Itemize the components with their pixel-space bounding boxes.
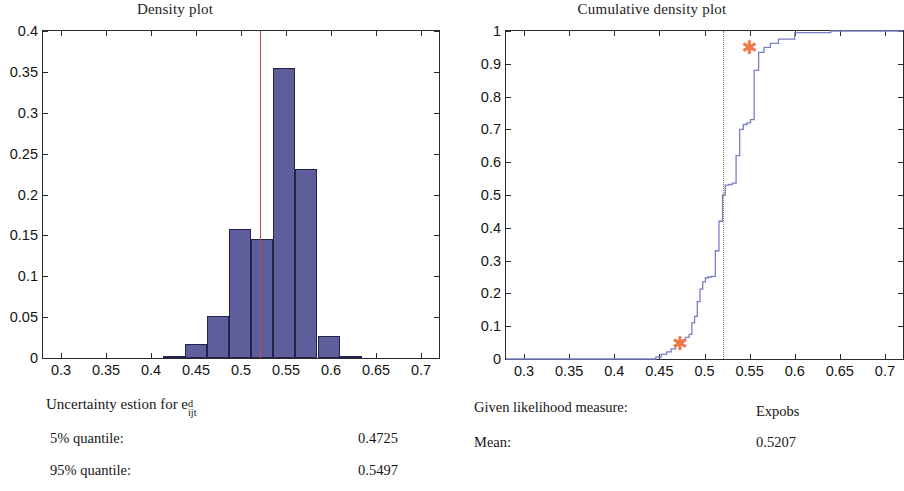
cumulative-y-tick-label: 0.5: [481, 187, 501, 203]
density-y-tick: [43, 235, 48, 236]
histogram-bar: [318, 336, 340, 358]
density-y-tick-right: [434, 113, 439, 114]
cumulative-y-tick-right: [898, 359, 903, 360]
histogram-bar: [207, 316, 229, 358]
histogram-bar: [340, 356, 362, 358]
density-y-tick-label: 0: [30, 350, 38, 366]
cumulative-mean-vline: [723, 31, 724, 359]
density-y-tick-label: 0.2: [18, 187, 38, 203]
likelihood-measure-value: Expobs: [756, 403, 800, 420]
density-y-tick-label: 0.25: [10, 146, 38, 162]
density-caption-heading: Uncertainty estion for edijt: [46, 396, 205, 413]
density-x-tick-top: [106, 31, 107, 36]
density-plot-panel: Density plot 00.050.10.150.20.250.30.350…: [0, 0, 440, 491]
cumulative-y-tick-label: 0.9: [481, 56, 501, 72]
density-x-tick: [376, 353, 377, 358]
cumulative-x-tick-label: 0.45: [645, 363, 673, 379]
cumulative-plot-axes: 00.10.20.30.40.50.60.70.80.91 0.30.350.4…: [505, 30, 904, 360]
density-y-tick-label: 0.05: [10, 309, 38, 325]
histogram-bar: [251, 239, 273, 358]
histogram-bar: [185, 344, 207, 358]
cumulative-density-plot-panel: Cumulative density plot 00.10.20.30.40.5…: [440, 0, 876, 491]
cdf-curve: [506, 31, 903, 359]
density-x-tick-label: 0.45: [182, 362, 210, 378]
density-y-tick: [43, 195, 48, 196]
density-x-tick: [151, 353, 152, 358]
cumulative-y-tick-label: 0.8: [481, 89, 501, 105]
density-caption-heading-text: Uncertainty estion for e: [46, 396, 188, 412]
density-y-tick-right: [434, 72, 439, 73]
cumulative-plot-title: Cumulative density plot: [434, 1, 870, 18]
density-y-tick-right: [434, 276, 439, 277]
density-y-tick-right: [434, 195, 439, 196]
density-x-tick-label: 0.3: [51, 362, 71, 378]
mean-label: Mean:: [474, 434, 511, 451]
density-y-tick-label: 0.3: [18, 105, 38, 121]
density-x-tick-label: 0.4: [141, 362, 161, 378]
cumulative-y-tick-label: 0.1: [481, 318, 501, 334]
cumulative-x-tick-label: 0.3: [514, 363, 534, 379]
density-x-tick: [421, 353, 422, 358]
mean-value: 0.5207: [756, 434, 796, 451]
density-x-tick-label: 0.35: [92, 362, 120, 378]
density-y-tick-right: [434, 31, 439, 32]
density-x-tick-label: 0.65: [362, 362, 390, 378]
likelihood-measure-label: Given likelihood measure:: [474, 399, 628, 416]
density-y-tick-label: 0.15: [10, 227, 38, 243]
density-y-tick: [43, 276, 48, 277]
density-x-tick-label: 0.7: [411, 362, 431, 378]
density-y-tick: [43, 113, 48, 114]
density-x-tick-label: 0.6: [321, 362, 341, 378]
density-y-tick-label: 0.35: [10, 64, 38, 80]
cumulative-y-tick-label: 1: [493, 23, 501, 39]
density-x-tick-top: [151, 31, 152, 36]
cumulative-x-tick-label: 0.6: [785, 363, 805, 379]
density-y-tick: [43, 154, 48, 155]
cdf-step-line: [506, 31, 903, 359]
density-y-tick-right: [434, 235, 439, 236]
density-x-tick-top: [331, 31, 332, 36]
histogram-bar: [273, 68, 295, 358]
density-y-tick-label: 0.1: [18, 268, 38, 284]
quantile-95-value: 0.5497: [358, 462, 398, 479]
density-x-tick: [61, 353, 62, 358]
density-y-tick: [43, 31, 48, 32]
density-plot-axes: 00.050.10.150.20.250.30.350.4 0.30.350.4…: [42, 30, 440, 359]
density-x-tick-label: 0.55: [272, 362, 300, 378]
quantile-95-label: 95% quantile:: [50, 462, 131, 479]
cumulative-y-tick-label: 0.4: [481, 220, 501, 236]
cumulative-y-tick-label: 0.7: [481, 121, 501, 137]
quantile-5-value: 0.4725: [358, 430, 398, 447]
density-x-tick: [106, 353, 107, 358]
density-y-tick: [43, 317, 48, 318]
cumulative-y-tick-label: 0.3: [481, 253, 501, 269]
density-x-tick-top: [61, 31, 62, 36]
cumulative-x-tick-label: 0.65: [826, 363, 854, 379]
density-x-tick-top: [421, 31, 422, 36]
density-mean-vline: [260, 31, 261, 358]
cumulative-x-tick-label: 0.7: [875, 363, 895, 379]
quantile-5-label: 5% quantile:: [50, 430, 124, 447]
cumulative-y-tick-label: 0.2: [481, 285, 501, 301]
cumulative-x-tick-label: 0.35: [555, 363, 583, 379]
density-x-tick-label: 0.5: [231, 362, 251, 378]
density-x-tick-top: [376, 31, 377, 36]
density-y-tick: [43, 358, 48, 359]
cumulative-y-tick-label: 0.6: [481, 154, 501, 170]
density-y-tick-right: [434, 317, 439, 318]
histogram-bar: [163, 356, 185, 358]
histogram-bar: [295, 169, 317, 358]
density-y-tick-label: 0.4: [18, 23, 38, 39]
density-x-tick-top: [286, 31, 287, 36]
cumulative-y-tick-label: 0: [493, 351, 501, 367]
density-plot-title: Density plot: [0, 1, 395, 18]
histogram-bar: [229, 229, 251, 358]
density-y-tick-right: [434, 358, 439, 359]
density-x-tick-top: [196, 31, 197, 36]
cumulative-x-tick-label: 0.5: [694, 363, 714, 379]
density-y-tick-right: [434, 154, 439, 155]
density-y-tick: [43, 72, 48, 73]
density-x-tick-top: [241, 31, 242, 36]
cumulative-x-tick-label: 0.4: [604, 363, 624, 379]
